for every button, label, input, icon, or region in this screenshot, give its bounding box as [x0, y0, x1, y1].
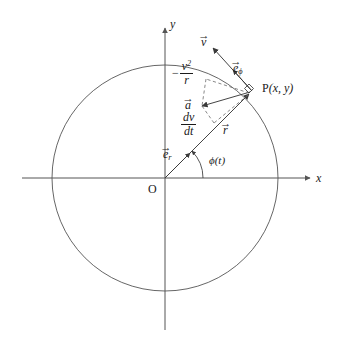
- x-axis-label: x: [316, 172, 321, 184]
- tangential-fraction: dv dt: [181, 111, 196, 138]
- centripetal-numerator: v2: [180, 60, 193, 74]
- unit-radial-vector-label: →e r: [163, 148, 172, 163]
- unit-radial-subscript: r: [168, 154, 171, 162]
- vector-accent-icon: →: [160, 142, 171, 153]
- angle-argument: (t): [215, 154, 225, 166]
- unit-tangential-subscript: ϕ: [238, 68, 242, 76]
- velocity-symbol: →v: [201, 36, 206, 48]
- angle-label: ϕ(t): [209, 155, 225, 166]
- origin-label: O: [148, 183, 157, 195]
- point-p-coords: (x, y): [269, 81, 294, 95]
- centripetal-exponent: 2: [187, 60, 191, 69]
- point-p-name: P: [262, 81, 269, 95]
- tangential-numerator: dv: [181, 111, 196, 125]
- unit-radial-symbol: →e: [163, 148, 168, 160]
- parallelogram-dashed-bottom: [202, 106, 214, 123]
- circular-motion-figure: y x O P(x, y) →v →e ϕ →e r →a →r: [0, 0, 337, 345]
- point-p-label: P(x, y): [262, 82, 293, 94]
- y-axis-label: y: [170, 18, 175, 30]
- tangential-denominator: dt: [181, 125, 196, 138]
- radius-symbol: →r: [223, 124, 228, 136]
- angle-arc: [192, 151, 203, 178]
- diagram-canvas: [0, 0, 337, 345]
- unit-tangential-symbol: →e: [233, 62, 238, 74]
- centripetal-denominator: r: [180, 74, 193, 87]
- velocity-vector-label: →v: [201, 36, 206, 48]
- centripetal-fraction: v2 r: [180, 60, 193, 87]
- vector-accent-icon: →: [220, 118, 231, 129]
- vector-accent-icon: [187, 105, 190, 116]
- vector-accent-icon: →: [230, 56, 241, 67]
- vector-accent-icon: →: [198, 30, 209, 41]
- tangential-component-label: dv dt: [181, 111, 196, 138]
- centripetal-component-label: − v2 r: [172, 60, 193, 87]
- right-angle-marker: [245, 84, 254, 93]
- radius-vector-label: →r: [223, 124, 228, 136]
- unit-tangential-vector-label: →e ϕ: [233, 62, 243, 77]
- vector-accent-icon: →: [182, 93, 193, 104]
- parallelogram-dashed-left: [202, 79, 206, 106]
- centripetal-minus-sign: −: [172, 67, 180, 79]
